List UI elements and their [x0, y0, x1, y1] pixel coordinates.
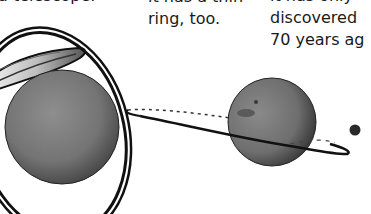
planet-spot-small	[254, 100, 258, 104]
ringed-planet	[228, 78, 316, 166]
planet-spot	[237, 109, 255, 117]
planets-illustration	[0, 0, 371, 214]
moon	[350, 125, 361, 136]
large-planet	[5, 70, 119, 184]
